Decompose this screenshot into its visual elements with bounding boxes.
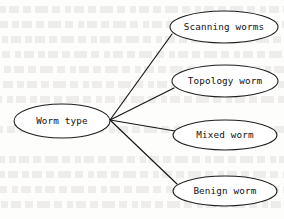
node-mixed-worm-label: Mixed worm bbox=[196, 129, 254, 140]
edge-line bbox=[110, 88, 174, 120]
node-scanning-worms-label: Scanning worms bbox=[184, 21, 264, 32]
edge-line bbox=[110, 34, 172, 120]
worm-type-tree-diagram: Worm typeScanning wormsTopology wormMixe… bbox=[0, 0, 284, 219]
nodes-group: Worm typeScanning wormsTopology wormMixe… bbox=[14, 11, 278, 206]
edges-group bbox=[110, 34, 177, 184]
diagram-canvas: Worm typeScanning wormsTopology wormMixe… bbox=[0, 0, 284, 219]
node-worm-type[interactable]: Worm type bbox=[14, 104, 110, 138]
node-topology-worm[interactable]: Topology worm bbox=[172, 65, 278, 97]
node-scanning-worms[interactable]: Scanning worms bbox=[170, 11, 278, 43]
node-benign-worm-label: Benign worm bbox=[193, 185, 256, 196]
node-topology-worm-label: Topology worm bbox=[188, 75, 263, 86]
node-benign-worm[interactable]: Benign worm bbox=[173, 176, 277, 206]
node-worm-type-label: Worm type bbox=[36, 115, 88, 126]
node-mixed-worm[interactable]: Mixed worm bbox=[173, 120, 277, 150]
